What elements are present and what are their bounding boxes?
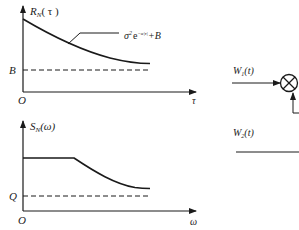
input2-label: W2(t) (233, 127, 254, 139)
decay-curve (23, 19, 150, 64)
autocorrelation-plot: RN( τ ) σ2e−α|τ|+B B O τ (9, 5, 196, 106)
formula-label: σ2e−α|τ|+B (124, 30, 161, 41)
feedback-line (293, 93, 299, 113)
y-label-arg: (ω) (40, 120, 55, 133)
x-label-tau: τ (192, 95, 196, 106)
multiplier-icon (281, 75, 298, 92)
x-label-omega: ω (190, 216, 197, 227)
asymptote-label-q: Q (9, 190, 17, 202)
input1-label: W1(t) (233, 65, 254, 77)
power-spectrum-plot: SN(ω) Q O ω (9, 120, 197, 227)
origin-label-bottom: O (18, 214, 26, 226)
formula-leader-line (68, 33, 119, 44)
svg-text:SN(ω): SN(ω) (30, 120, 56, 134)
figure-canvas: RN( τ ) σ2e−α|τ|+B B O τ SN(ω) Q O ω W1(… (0, 0, 299, 230)
y-label-arg: ( τ ) (41, 5, 59, 18)
block-diagram: W1(t) W2(t) (232, 65, 299, 152)
asymptote-label-b: B (9, 64, 16, 76)
svg-text:RN( τ ): RN( τ ) (29, 5, 59, 19)
spectrum-curve (23, 158, 150, 189)
origin-label-top: O (18, 94, 26, 106)
